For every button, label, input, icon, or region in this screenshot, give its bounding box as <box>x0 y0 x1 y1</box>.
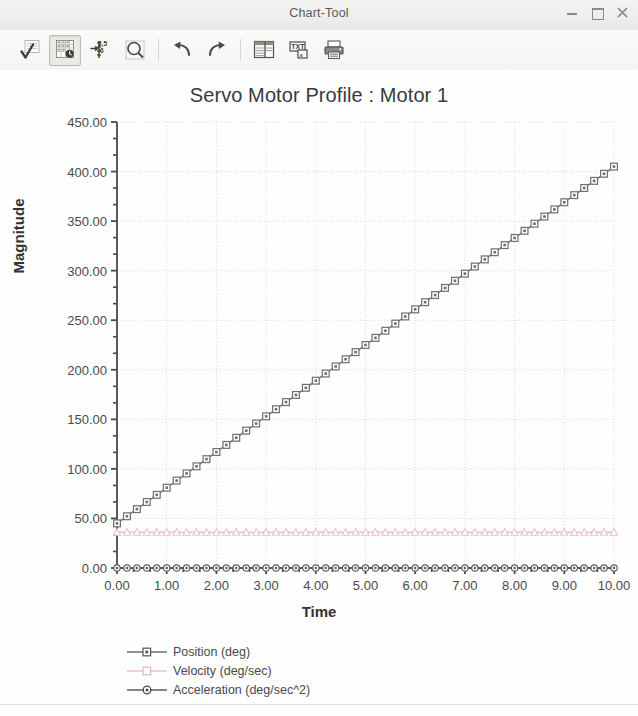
data-point-center <box>503 244 506 247</box>
data-point-center <box>195 465 198 468</box>
window-controls <box>566 6 629 19</box>
data-point-center <box>563 567 566 570</box>
legend-item[interactable]: Position (deg) <box>125 642 310 661</box>
y-axis-tick-label: 300.00 <box>67 264 107 279</box>
title-bar: Chart-Tool <box>0 0 638 31</box>
data-point-center <box>394 322 397 325</box>
legend-label-position: Position (deg) <box>169 645 250 659</box>
data-point-center <box>275 567 278 570</box>
x-axis-tick-label: 7.00 <box>452 578 477 593</box>
data-point-center <box>424 567 427 570</box>
y-axis-tick-label: 100.00 <box>67 462 107 477</box>
data-point-center <box>285 401 288 404</box>
legend-label-acceleration: Acceleration (deg/sec^2) <box>169 683 310 697</box>
y-axis-tick-label: 200.00 <box>67 363 107 378</box>
text-box-button[interactable]: TXT a <box>283 35 315 66</box>
data-point-center <box>483 567 486 570</box>
data-point-center <box>553 567 556 570</box>
data-point-center <box>394 567 397 570</box>
data-point-center <box>285 567 288 570</box>
chart-plot[interactable]: 0.0050.00100.00150.00200.00250.00300.003… <box>0 70 638 600</box>
minimize-icon[interactable] <box>566 6 579 19</box>
data-point-center <box>474 265 477 268</box>
data-point-center <box>116 522 119 525</box>
window-title: Chart-Tool <box>0 6 638 20</box>
y-axis-tick-label: 0.00 <box>82 561 107 576</box>
x-axis-tick-label: 1.00 <box>154 578 179 593</box>
toolbar-separator <box>158 39 159 61</box>
data-point-center <box>324 567 327 570</box>
data-point-center <box>464 272 467 275</box>
data-point-center <box>513 567 516 570</box>
data-point-center <box>136 508 139 511</box>
data-point-center <box>603 172 606 175</box>
data-point-center <box>483 258 486 261</box>
chart-legend: Position (deg) Velocity (deg/sec) Accele… <box>125 642 310 699</box>
x-axis-tick-label: 6.00 <box>403 578 428 593</box>
data-point-center <box>354 567 357 570</box>
chart-tool-window: Chart-Tool <box>0 0 638 716</box>
y-axis-tick-label: 400.00 <box>67 165 107 180</box>
legend-item[interactable]: Velocity (deg/sec) <box>125 661 310 680</box>
data-point-center <box>404 567 407 570</box>
data-point-center <box>225 444 228 447</box>
legend-marker-position <box>125 645 169 659</box>
data-point-center <box>344 567 347 570</box>
data-point-center <box>573 194 576 197</box>
data-point-center <box>613 165 616 168</box>
data-point-center <box>175 567 178 570</box>
data-point-center <box>583 187 586 190</box>
y-axis-tick-label: 250.00 <box>67 313 107 328</box>
magnifier-button[interactable] <box>119 35 151 66</box>
data-point-center <box>364 567 367 570</box>
data-point-center <box>364 344 367 347</box>
data-point-center <box>434 567 437 570</box>
x-axis-tick-label: 9.00 <box>552 578 577 593</box>
data-point-center <box>384 567 387 570</box>
data-point-center <box>573 567 576 570</box>
data-point-center <box>295 567 298 570</box>
legend-marker-acceleration <box>125 683 169 697</box>
toolbar: 3,5 6 <box>0 30 638 71</box>
data-point-center <box>583 567 586 570</box>
legend-label-velocity: Velocity (deg/sec) <box>169 664 272 678</box>
y-axis-label: Magnitude <box>10 156 27 316</box>
data-grid-clock-button[interactable] <box>49 35 81 66</box>
x-axis-tick-label: 3.00 <box>253 578 278 593</box>
apply-check-button[interactable] <box>14 35 46 66</box>
close-icon[interactable] <box>616 6 629 19</box>
data-point-center <box>533 567 536 570</box>
redo-button[interactable] <box>201 35 233 66</box>
data-point-center <box>225 567 228 570</box>
data-point-center <box>195 567 198 570</box>
data-point-center <box>613 567 616 570</box>
data-point-center <box>245 567 248 570</box>
data-point-center <box>533 222 536 225</box>
x-axis-tick-label: 5.00 <box>353 578 378 593</box>
data-point-center <box>146 501 149 504</box>
x-axis-tick-label: 4.00 <box>303 578 328 593</box>
data-point-center <box>315 567 318 570</box>
value-axis-button[interactable]: 3,5 6 <box>84 35 116 66</box>
data-point-center <box>155 567 158 570</box>
data-point-center <box>553 208 556 211</box>
data-point-center <box>493 567 496 570</box>
x-axis-tick-label: 8.00 <box>502 578 527 593</box>
data-point-center <box>126 515 129 518</box>
legend-item[interactable]: Acceleration (deg/sec^2) <box>125 680 310 699</box>
data-point-center <box>305 387 308 390</box>
data-point-center <box>215 451 218 454</box>
table-layout-button[interactable] <box>248 35 280 66</box>
data-point-center <box>126 567 129 570</box>
printer-button[interactable] <box>318 35 350 66</box>
data-point-center <box>305 567 308 570</box>
maximize-icon[interactable] <box>591 6 604 19</box>
data-point-center <box>205 567 208 570</box>
data-point-center <box>454 279 457 282</box>
data-point-center <box>374 337 377 340</box>
data-point-center <box>593 180 596 183</box>
y-axis-tick-label: 450.00 <box>67 115 107 130</box>
undo-button[interactable] <box>166 35 198 66</box>
data-point-center <box>424 301 427 304</box>
y-axis-tick-label: 150.00 <box>67 412 107 427</box>
